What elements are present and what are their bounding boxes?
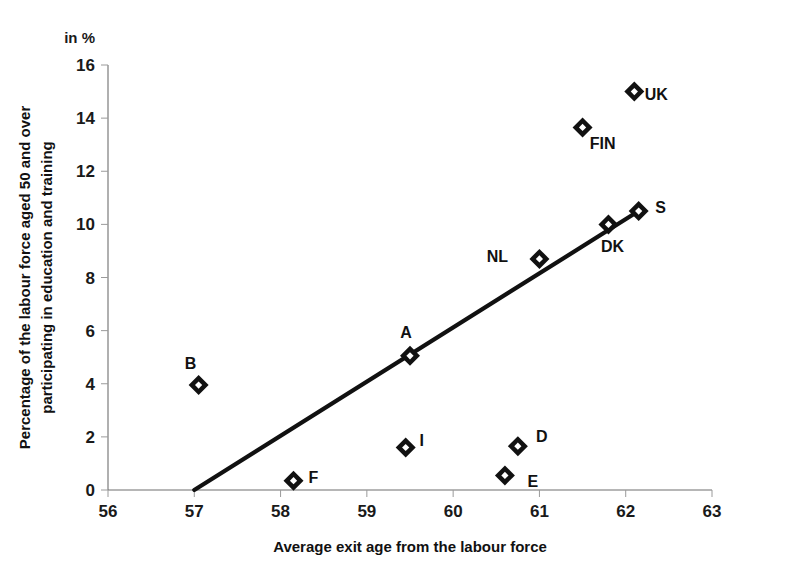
data-point[interactable]: FIN xyxy=(573,117,616,152)
data-point-label: F xyxy=(309,469,319,486)
y-axis-title-line-1: Percentage of the labour force aged 50 a… xyxy=(16,106,33,450)
tick-labels-group: 56575859606162630246810121416in % xyxy=(64,29,721,521)
data-point-label: DK xyxy=(601,238,625,255)
x-tick-label: 59 xyxy=(357,502,376,521)
data-point-label: NL xyxy=(487,248,509,265)
data-point[interactable]: UK xyxy=(624,82,668,103)
y-tick-label: 8 xyxy=(86,269,95,288)
data-point[interactable]: I xyxy=(396,432,424,458)
axes-group xyxy=(101,65,712,497)
data-point-label: B xyxy=(185,355,197,372)
data-point-label: S xyxy=(655,199,666,216)
data-point[interactable]: S xyxy=(629,199,667,221)
data-point[interactable]: E xyxy=(495,465,539,490)
trendline-group xyxy=(194,211,638,490)
x-tick-label: 63 xyxy=(703,502,722,521)
y-tick-label: 6 xyxy=(86,322,95,341)
data-point-label: UK xyxy=(645,86,669,103)
data-point[interactable]: NL xyxy=(487,248,550,269)
data-point-label: I xyxy=(419,432,423,449)
y-axis-title-line-2: participating in education and training xyxy=(38,141,55,414)
trend-line xyxy=(194,211,638,490)
x-tick-label: 57 xyxy=(185,502,204,521)
y-tick-label: 10 xyxy=(76,215,95,234)
x-tick-label: 62 xyxy=(616,502,635,521)
y-tick-label: 0 xyxy=(86,481,95,500)
x-axis-title: Average exit age from the labour force xyxy=(273,538,547,555)
y-tick-label: 14 xyxy=(76,109,95,128)
x-tick-label: 61 xyxy=(530,502,549,521)
x-tick-label: 60 xyxy=(444,502,463,521)
chart-canvas: 56575859606162630246810121416in % BFIAED… xyxy=(0,0,800,568)
data-point-label: E xyxy=(528,473,539,490)
y-tick-label: 2 xyxy=(86,428,95,447)
data-point-label: D xyxy=(536,428,548,445)
data-points-group: BFIAEDNLFINDKSUK xyxy=(185,82,669,491)
data-point[interactable]: F xyxy=(284,469,319,491)
y-tick-label: 16 xyxy=(76,56,95,75)
y-tick-label: 4 xyxy=(86,375,96,394)
data-point-label: FIN xyxy=(590,135,616,152)
y-axis-unit-label: in % xyxy=(64,29,95,46)
axis-titles-group: Average exit age from the labour forcePe… xyxy=(16,106,547,555)
x-tick-label: 56 xyxy=(99,502,118,521)
data-point[interactable]: D xyxy=(508,428,548,456)
y-tick-label: 12 xyxy=(76,162,95,181)
data-point-label: A xyxy=(400,324,412,341)
scatter-chart: 56575859606162630246810121416in % BFIAED… xyxy=(0,0,800,568)
data-point[interactable]: B xyxy=(185,355,209,395)
x-tick-label: 58 xyxy=(271,502,290,521)
